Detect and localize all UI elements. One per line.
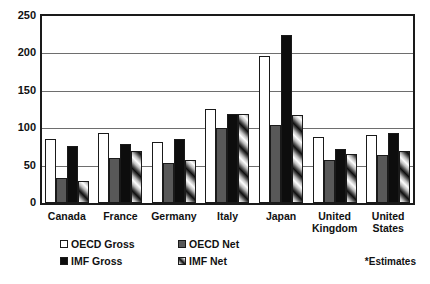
bar xyxy=(388,133,399,203)
bar-group xyxy=(254,16,308,203)
bar xyxy=(216,128,227,203)
legend-swatch-gray-icon xyxy=(178,240,186,248)
y-axis-tick-label: 100 xyxy=(0,122,36,133)
legend-swatch-black-icon xyxy=(60,257,68,265)
legend-label-imf-gross: IMF Gross xyxy=(71,255,122,267)
y-axis-tick-label: 0 xyxy=(0,197,36,208)
debt-comparison-bar-chart: 050100150200250CanadaFranceGermanyItalyJ… xyxy=(0,0,430,284)
bar xyxy=(185,160,196,203)
legend-label-oecd-net: OECD Net xyxy=(189,238,239,250)
bar xyxy=(377,155,388,203)
bar xyxy=(109,158,120,203)
legend-item-oecd-gross: OECD Gross xyxy=(60,238,178,250)
x-axis-category-label: United Kingdom xyxy=(308,211,362,234)
bar xyxy=(163,163,174,203)
y-axis-tick-label: 50 xyxy=(0,160,36,171)
bar xyxy=(366,135,377,203)
legend-label-oecd-gross: OECD Gross xyxy=(71,238,135,250)
bar xyxy=(313,137,324,203)
bar-group xyxy=(361,16,415,203)
legend-item-oecd-net: OECD Net xyxy=(178,238,290,250)
x-axis-category-label: Italy xyxy=(201,211,255,223)
bar xyxy=(131,151,142,203)
bar xyxy=(98,133,109,203)
y-axis-tick-label: 250 xyxy=(0,10,36,21)
bar-group xyxy=(201,16,255,203)
legend-swatch-white-icon xyxy=(60,240,68,248)
bar xyxy=(205,109,216,203)
bar xyxy=(324,160,335,203)
bar xyxy=(78,181,89,203)
bar-group xyxy=(147,16,201,203)
bar-group xyxy=(40,16,94,203)
bar xyxy=(120,144,131,203)
bar xyxy=(45,139,56,203)
bar xyxy=(152,142,163,203)
bar xyxy=(238,114,249,203)
legend-swatch-hatched-icon xyxy=(178,257,186,265)
bar xyxy=(67,146,78,203)
legend-label-imf-net: IMF Net xyxy=(189,255,227,267)
bar xyxy=(292,115,303,203)
bar-group xyxy=(308,16,362,203)
bar xyxy=(259,56,270,203)
bar xyxy=(174,139,185,203)
bar xyxy=(399,151,410,203)
y-axis-tick-label: 200 xyxy=(0,47,36,58)
x-axis-category-label: Germany xyxy=(147,211,201,223)
bar xyxy=(281,35,292,203)
bar xyxy=(346,154,357,203)
x-axis-category-label: Japan xyxy=(254,211,308,223)
x-axis-category-label: Canada xyxy=(40,211,94,223)
bar xyxy=(227,114,238,203)
x-axis-category-label: United States xyxy=(361,211,415,234)
legend-item-imf-gross: IMF Gross xyxy=(60,255,178,267)
x-axis-category-label: France xyxy=(94,211,148,223)
bar-group xyxy=(94,16,148,203)
bar xyxy=(270,125,281,203)
y-axis-tick-label: 150 xyxy=(0,85,36,96)
legend-item-imf-net: IMF Net xyxy=(178,255,290,267)
chart-footnote: *Estimates xyxy=(365,256,416,267)
bar xyxy=(56,178,67,203)
chart-legend: OECD Gross OECD Net IMF Gross IMF Net xyxy=(60,238,290,267)
bar xyxy=(335,149,346,203)
